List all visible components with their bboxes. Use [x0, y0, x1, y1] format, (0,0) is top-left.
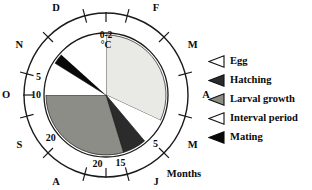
legend: Egg Hatching Larval growth Interval peri…: [208, 52, 312, 147]
month-label: S: [16, 140, 22, 151]
scale-label: 10: [31, 90, 41, 100]
month-label: M: [188, 40, 198, 51]
month-label: A: [52, 176, 60, 187]
triangle-left-outline-icon: [208, 112, 225, 125]
legend-label: Larval growth: [230, 94, 295, 105]
legend-item-larval-growth: Larval growth: [208, 90, 312, 109]
triangle-left-black-icon: [208, 131, 225, 144]
month-label: N: [16, 40, 24, 51]
legend-label: Egg: [230, 56, 248, 67]
scale-label: 5: [36, 72, 41, 82]
legend-label: Mating: [230, 132, 263, 143]
temperature-value: 0-2: [100, 30, 113, 40]
month-label: D: [52, 3, 60, 14]
triangle-left-gray-icon: [208, 93, 225, 106]
triangle-left-dark-icon: [208, 74, 225, 87]
legend-item-hatching: Hatching: [208, 71, 312, 90]
month-label: F: [153, 3, 159, 14]
temperature-annotation: 0-2 °C: [100, 30, 113, 51]
polar-life-cycle-figure: JFMAMJJASOND 5102020155 0-2 °C Months Eg…: [0, 0, 312, 190]
legend-item-interval-period: Interval period: [208, 109, 312, 128]
scale-label: 20: [92, 159, 102, 169]
month-label: J: [153, 176, 158, 187]
triangle-left-outline-icon: [208, 55, 225, 68]
legend-label: Hatching: [230, 75, 271, 86]
axis-caption-months: Months: [167, 169, 201, 180]
scale-label: 15: [116, 158, 126, 168]
legend-item-egg: Egg: [208, 52, 312, 71]
temperature-unit: °C: [100, 40, 113, 50]
legend-label: Interval period: [230, 113, 298, 124]
scale-label: 20: [46, 133, 56, 143]
month-label: M: [188, 140, 198, 151]
polar-chart: JFMAMJJASOND 5102020155 0-2 °C Months: [8, 0, 204, 190]
month-label: O: [2, 90, 10, 101]
scale-label: 5: [153, 139, 158, 149]
legend-item-mating: Mating: [208, 128, 312, 147]
